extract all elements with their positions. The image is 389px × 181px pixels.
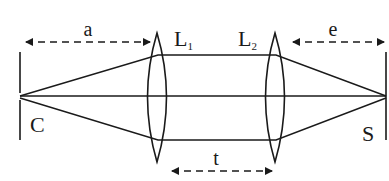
upper-ray [20, 55, 386, 96]
label-lens-1-main: L [174, 26, 187, 51]
label-lens-2: L2 [238, 26, 257, 52]
label-e: e [329, 18, 338, 40]
label-a: a [84, 18, 93, 40]
lens-1 [148, 33, 167, 162]
lower-ray [20, 98, 386, 140]
label-object-c: C [30, 112, 45, 137]
label-lens-1: L1 [174, 26, 193, 52]
label-t: t [213, 147, 219, 169]
lens-2 [266, 33, 285, 162]
label-screen-s: S [362, 121, 374, 146]
optics-diagram: a e t L1 L2 C S [0, 0, 389, 181]
label-lens-2-sub: 2 [251, 40, 257, 52]
label-lens-1-sub: 1 [187, 40, 193, 52]
label-lens-2-main: L [238, 26, 251, 51]
